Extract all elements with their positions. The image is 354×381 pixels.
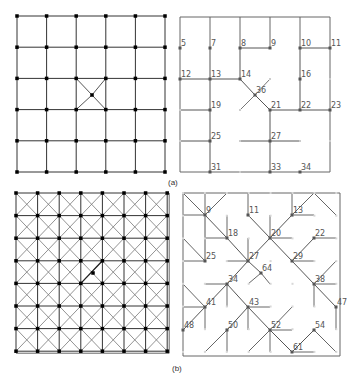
inactive-node xyxy=(299,140,301,142)
grid-node xyxy=(36,236,40,240)
grid-node xyxy=(15,77,19,81)
grid-node xyxy=(74,14,78,18)
grid-node xyxy=(45,170,49,174)
grid-node xyxy=(15,45,19,49)
node-label: 34 xyxy=(301,163,311,172)
grid-node xyxy=(101,282,105,286)
grid-node xyxy=(101,236,105,240)
panel-b-sparse-graph: 911131820222527296434384143474850525461 xyxy=(182,192,348,356)
figure-canvas: 578910111213141636192122232527313334 911… xyxy=(0,0,354,381)
inactive-node xyxy=(335,260,337,262)
caption-a: (a) xyxy=(168,178,178,187)
grid-node xyxy=(144,259,148,263)
grid-node xyxy=(79,191,83,195)
panel-a-full-grid xyxy=(15,14,167,174)
inactive-node xyxy=(335,351,337,353)
inactive-node xyxy=(270,283,272,285)
grid-node xyxy=(165,282,169,286)
grid-node xyxy=(101,191,105,195)
inactive-node xyxy=(313,260,315,262)
grid-node xyxy=(163,77,167,81)
grid-node xyxy=(36,349,40,353)
node-label: 22 xyxy=(301,101,311,110)
grid-node xyxy=(57,214,61,218)
inactive-node xyxy=(204,351,206,353)
inactive-node xyxy=(335,215,337,217)
inactive-node xyxy=(248,328,250,330)
node-label: 5 xyxy=(181,39,186,48)
grid-node xyxy=(79,214,83,218)
grid-node xyxy=(14,214,18,218)
inactive-node xyxy=(248,351,250,353)
grid-node xyxy=(101,304,105,308)
grid-node xyxy=(165,304,169,308)
grid-node xyxy=(45,108,49,112)
grid-node xyxy=(104,170,108,174)
panel-b-full-grid xyxy=(14,191,169,353)
grid-node xyxy=(15,170,19,174)
grid-node xyxy=(45,139,49,143)
inactive-node xyxy=(226,306,228,308)
grid-node xyxy=(122,259,126,263)
inactive-node xyxy=(204,283,206,285)
node-label: 16 xyxy=(301,70,311,79)
inactive-node xyxy=(313,192,315,194)
grid-node xyxy=(165,327,169,331)
node-label: 48 xyxy=(184,321,194,330)
grid-node xyxy=(101,349,105,353)
grid-node xyxy=(144,191,148,195)
inactive-node xyxy=(313,306,315,308)
node-label: 41 xyxy=(206,298,216,307)
inactive-node xyxy=(226,215,228,217)
grid-node xyxy=(163,14,167,18)
node-label: 50 xyxy=(228,321,238,330)
grid-node xyxy=(101,327,105,331)
inactive-node xyxy=(182,215,184,217)
node-label: 7 xyxy=(211,39,216,48)
grid-node xyxy=(104,77,108,81)
node-label: 14 xyxy=(241,70,251,79)
inactive-node xyxy=(239,171,241,173)
grid-node xyxy=(122,282,126,286)
grid-node xyxy=(79,236,83,240)
grid-node xyxy=(45,14,49,18)
node-label: 31 xyxy=(211,163,221,172)
grid-node xyxy=(15,14,19,18)
node-label: 38 xyxy=(315,275,325,284)
node-label: 23 xyxy=(331,101,341,110)
grid-node xyxy=(134,108,138,112)
grid-node xyxy=(74,139,78,143)
inactive-node xyxy=(239,140,241,142)
grid-node xyxy=(14,327,18,331)
grid-node xyxy=(163,108,167,112)
inactive-node xyxy=(226,351,228,353)
grid-node xyxy=(165,259,169,263)
grid-node xyxy=(79,327,83,331)
grid-node xyxy=(165,349,169,353)
grid-node xyxy=(57,327,61,331)
grid-node xyxy=(101,259,105,263)
node-label: 9 xyxy=(206,206,211,215)
grid-node xyxy=(74,45,78,49)
panel-a-sparse-graph: 578910111213141636192122232527313334 xyxy=(179,17,342,174)
node-label: 13 xyxy=(211,70,221,79)
inactive-node xyxy=(182,260,184,262)
inactive-node xyxy=(179,109,181,111)
grid-node xyxy=(134,139,138,143)
node-label: 9 xyxy=(271,39,276,48)
grid-node xyxy=(14,282,18,286)
node-label: 11 xyxy=(249,206,259,215)
center-node xyxy=(91,271,95,275)
inactive-node xyxy=(329,78,331,80)
node-label: 19 xyxy=(211,101,221,110)
grid-node xyxy=(163,170,167,174)
grid-node xyxy=(134,170,138,174)
node-label: 13 xyxy=(293,206,303,215)
grid-node xyxy=(163,45,167,49)
node-label: 11 xyxy=(331,39,341,48)
grid-node xyxy=(74,170,78,174)
node-label: 20 xyxy=(271,229,281,238)
grid-node xyxy=(122,191,126,195)
inactive-node xyxy=(270,260,272,262)
grid-node xyxy=(79,304,83,308)
